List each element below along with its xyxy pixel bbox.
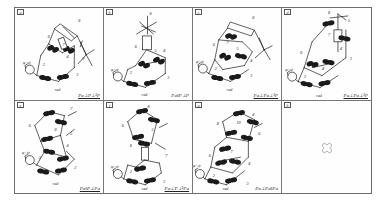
panel-caption-f: Pa⊥P⊥¹Pa <box>165 185 189 191</box>
svg-text:3: 3 <box>350 56 352 61</box>
mechanism-diagram-c: 8 6 7 5 4 2 3 φ+ψ rad <box>193 8 281 100</box>
svg-text:φ+ψ: φ+ψ <box>22 150 30 155</box>
panel-caption-g: Pa⊥Pa‖Pa <box>255 185 278 191</box>
svg-text:φ+ψ: φ+ψ <box>111 67 119 72</box>
svg-text:6: 6 <box>122 123 125 128</box>
svg-text:rad: rad <box>142 92 149 97</box>
panel-h: h <box>282 101 371 194</box>
svg-text:2: 2 <box>130 70 132 75</box>
svg-text:6: 6 <box>213 42 216 47</box>
svg-text:5: 5 <box>151 127 153 132</box>
svg-text:φ+ψ: φ+ψ <box>111 164 119 169</box>
svg-text:8: 8 <box>148 103 151 108</box>
panel-caption-e: Pa‖P⊥Pa <box>80 185 100 191</box>
svg-text:φ+ψ: φ+ψ <box>193 163 201 168</box>
svg-text:8: 8 <box>55 127 58 132</box>
panel-d: d <box>282 8 371 101</box>
panel-label-h: h <box>284 102 291 108</box>
svg-text:3: 3 <box>250 73 252 78</box>
svg-text:2: 2 <box>39 155 41 160</box>
svg-text:4: 4 <box>66 143 68 148</box>
svg-text:φ+ψ: φ+ψ <box>23 60 31 65</box>
svg-text:5: 5 <box>348 18 350 23</box>
svg-text:6: 6 <box>48 34 51 39</box>
svg-text:7: 7 <box>328 32 331 37</box>
svg-text:3: 3 <box>76 72 78 77</box>
svg-text:10: 10 <box>237 119 242 124</box>
svg-text:rad: rad <box>316 93 323 98</box>
svg-text:8: 8 <box>149 11 152 16</box>
mechanism-diagram-g: 8 10 4 6 6 7 4 2 3 φ+ψ rad <box>193 101 281 194</box>
panel-c: c <box>193 8 282 101</box>
svg-text:8: 8 <box>130 143 133 148</box>
panel-caption-c: Pa⊥Pa⊥¹P <box>254 92 278 98</box>
panel-e: e <box>15 101 104 194</box>
svg-text:8: 8 <box>78 18 81 23</box>
figure-frame: a <box>14 7 372 194</box>
svg-text:3: 3 <box>163 178 165 183</box>
mechanism-diagram-f: 8 6 5 8 7 2 3 φ+ψ rad <box>104 101 192 194</box>
svg-text:φ+ψ: φ+ψ <box>285 67 293 72</box>
svg-text:rad: rad <box>223 185 230 190</box>
svg-text:4: 4 <box>66 54 68 59</box>
svg-text:2: 2 <box>43 62 45 67</box>
svg-text:6: 6 <box>135 44 138 49</box>
mechanism-diagram-a: 8 6 7 4 2 3 9 φ+ψ rad <box>15 8 103 100</box>
svg-text:φ+ψ: φ+ψ <box>196 59 204 64</box>
svg-text:6: 6 <box>209 153 212 158</box>
svg-text:8: 8 <box>328 10 331 15</box>
svg-text:4: 4 <box>340 46 342 51</box>
panel-f: f <box>104 101 193 194</box>
svg-text:rad: rad <box>53 180 60 185</box>
cross-marker-icon <box>320 140 333 153</box>
svg-text:4: 4 <box>163 48 165 53</box>
svg-text:6: 6 <box>29 123 32 128</box>
panel-a: a <box>15 8 104 101</box>
svg-text:3: 3 <box>74 165 76 170</box>
svg-text:9: 9 <box>82 56 84 61</box>
svg-text:3: 3 <box>167 75 169 80</box>
svg-text:5: 5 <box>70 131 72 136</box>
svg-text:7: 7 <box>231 149 234 154</box>
svg-text:7: 7 <box>70 105 73 110</box>
svg-text:rad: rad <box>227 87 234 92</box>
svg-text:4: 4 <box>248 161 250 166</box>
svg-text:2: 2 <box>213 172 215 177</box>
svg-text:5: 5 <box>237 46 239 51</box>
panel-caption-d: Pa⊥Pa⊥¹P <box>344 92 368 98</box>
svg-text:6: 6 <box>300 50 303 55</box>
mechanism-diagram-e: 7 6 8 5 4 2 3 φ+ψ rad <box>15 101 103 194</box>
svg-text:4: 4 <box>250 58 252 63</box>
svg-text:6: 6 <box>258 131 261 136</box>
svg-text:4: 4 <box>252 111 254 116</box>
svg-text:8: 8 <box>217 121 220 126</box>
svg-text:5: 5 <box>154 48 156 53</box>
svg-text:7: 7 <box>165 153 168 158</box>
svg-text:2: 2 <box>304 74 306 79</box>
panel-caption-a: Pa⊥P⊥¹P <box>78 92 100 98</box>
svg-text:4: 4 <box>322 66 324 71</box>
panel-g: g <box>193 101 282 194</box>
svg-text:rad: rad <box>55 87 62 92</box>
svg-text:2: 2 <box>215 66 217 71</box>
svg-text:rad: rad <box>142 185 149 190</box>
panel-b: b <box>104 8 193 101</box>
mechanism-diagram-b: 8 6 5 4 2 3 φ+ψ rad <box>104 8 192 100</box>
svg-text:3: 3 <box>246 180 248 185</box>
panel-caption-b: Pa‖P⊥P <box>171 92 189 98</box>
svg-text:2: 2 <box>130 168 132 173</box>
svg-text:8: 8 <box>252 15 255 20</box>
mechanism-diagram-d: 8 5 6 7 4 2 3 4 φ+ψ rad <box>282 8 371 100</box>
